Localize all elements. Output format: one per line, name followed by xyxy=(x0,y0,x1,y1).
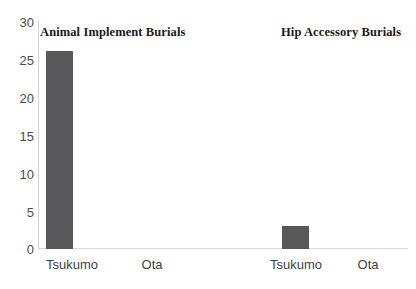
bar-chart: 30 25 20 15 10 5 0 Animal Implement Buri… xyxy=(0,0,416,289)
y-tick-0: 0 xyxy=(4,243,34,256)
y-tick-10: 10 xyxy=(4,168,34,181)
group-title-hip-accessory-burials: Hip Accessory Burials xyxy=(281,25,401,40)
x-category-label-0: Tsukumo xyxy=(32,258,112,272)
x-category-label-2: Tsukumo xyxy=(256,258,336,272)
y-tick-15: 15 xyxy=(4,130,34,143)
y-tick-5: 5 xyxy=(4,206,34,219)
y-tick-25: 25 xyxy=(4,54,34,67)
bar-animal-implement-tsukumo xyxy=(46,51,73,249)
y-tick-30: 30 xyxy=(4,16,34,29)
x-category-label-1: Ota xyxy=(122,258,182,272)
y-axis-tick-labels: 30 25 20 15 10 5 0 xyxy=(0,0,34,289)
group-title-animal-implement-burials: Animal Implement Burials xyxy=(40,25,185,40)
bar-hip-accessory-tsukumo xyxy=(282,226,309,249)
x-category-label-3: Ota xyxy=(338,258,398,272)
plot-area xyxy=(39,20,408,249)
y-tick-20: 20 xyxy=(4,92,34,105)
